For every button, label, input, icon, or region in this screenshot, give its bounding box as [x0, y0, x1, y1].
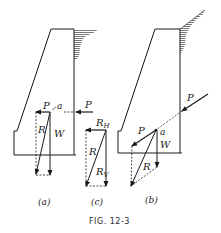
external-force-arrow-b [182, 94, 208, 111]
point-a-marker-b [155, 129, 158, 132]
soil-hatching-a [74, 29, 99, 60]
panel-b: P P a W R (b) [118, 10, 208, 205]
horizontal-component-label-c: RH [95, 117, 111, 130]
vertical-component-label-c: RV [95, 166, 110, 179]
panel-label-a: (a) [38, 197, 51, 207]
resultant-label-a: R [37, 124, 46, 135]
p-component-label-a: P [42, 100, 50, 111]
point-label-a: a [57, 101, 62, 111]
figure-caption: FIG. 12-3 [89, 217, 130, 226]
p-component-label-b: P [137, 125, 145, 136]
panel-c: RH R RV (c) [86, 117, 111, 207]
force-parallelogram-a [36, 112, 74, 175]
leader-line-a [52, 107, 56, 110]
backfill-surface-b [180, 10, 205, 29]
external-force-label-a: P [84, 99, 92, 110]
figure-canvas: P P a R W (a) RH R RV (c) P [0, 0, 221, 233]
weight-label-a: W [54, 128, 65, 139]
panel-label-b: (b) [145, 195, 158, 205]
resultant-label-b: R [142, 161, 151, 172]
resultant-arrow-a [36, 112, 50, 174]
panel-label-c: (c) [91, 197, 104, 207]
external-force-label-b: P [186, 92, 194, 103]
soil-hatching-b [180, 10, 205, 54]
weight-label-b: W [160, 139, 171, 150]
resultant-label-c: R [88, 146, 97, 157]
point-label-b: a [160, 127, 165, 137]
